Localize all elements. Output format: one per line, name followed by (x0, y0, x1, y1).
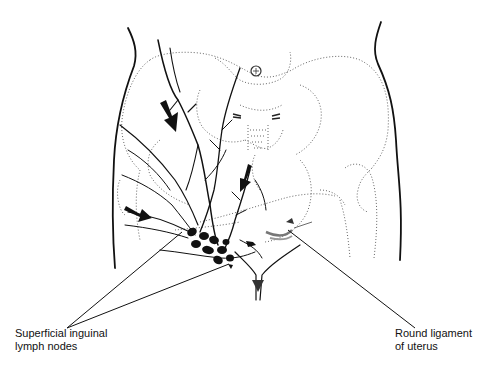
lymphatic-vessels (120, 40, 266, 258)
left-body-contour (113, 28, 136, 268)
leader-line-round-ligament (288, 230, 415, 328)
arrow-icon (240, 164, 252, 192)
right-body-contour (375, 22, 401, 260)
label-line: Round ligament (395, 327, 472, 340)
pubic-region (235, 245, 300, 300)
drainage-arrows (124, 100, 256, 247)
anatomical-illustration (0, 0, 498, 378)
sacrum (233, 114, 280, 150)
superficial-inguinal-lymph-nodes (186, 226, 234, 269)
arrow-icon (160, 100, 178, 132)
umbilicus (251, 66, 261, 76)
label-round-ligament-of-uterus: Round ligament of uterus (395, 327, 472, 353)
label-line: Superficial inguinal (15, 327, 107, 340)
round-ligament (266, 218, 312, 239)
leader-line-nodes-1 (67, 232, 182, 328)
label-line: lymph nodes (15, 340, 107, 353)
leader-line-nodes-2 (67, 264, 229, 328)
arrow-icon (246, 241, 256, 247)
label-superficial-inguinal-lymph-nodes: Superficial inguinal lymph nodes (15, 327, 107, 353)
pelvis-outline (118, 52, 389, 258)
arrow-icon (124, 206, 152, 222)
label-line: of uterus (395, 340, 472, 353)
